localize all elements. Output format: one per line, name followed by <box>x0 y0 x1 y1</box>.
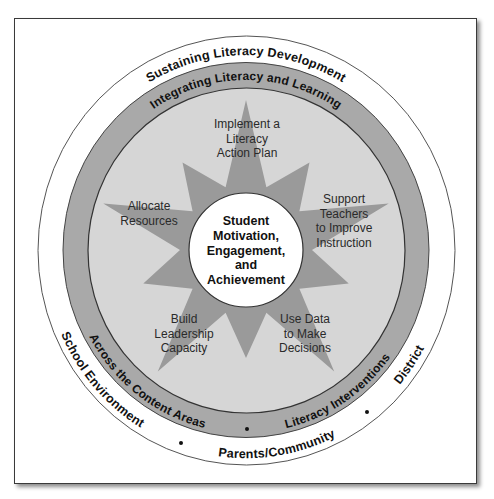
star-label-build-leadership: Build Leadership Capacity <box>154 312 213 356</box>
label-line: Achievement <box>207 273 286 288</box>
label-line: Build <box>154 312 213 327</box>
label-line: Allocate <box>120 199 177 214</box>
label-line: Leadership <box>154 327 213 342</box>
label-line: Student <box>207 214 286 229</box>
label-line: Support <box>316 192 373 207</box>
separator-dot-outer-right <box>365 410 369 414</box>
label-line: Engagement, <box>207 244 286 259</box>
label-line: Capacity <box>154 341 213 356</box>
label-line: Teachers <box>316 207 373 222</box>
separator-dot-outer-left <box>179 441 183 445</box>
star-label-use-data: Use Data to Make Decisions <box>279 312 331 356</box>
label-line: to Improve <box>316 221 373 236</box>
label-line: Motivation, <box>207 229 286 244</box>
label-line: Literacy <box>214 132 280 147</box>
label-line: Instruction <box>316 236 373 251</box>
center-label-student-outcomes: Student Motivation, Engagement, and Achi… <box>207 214 286 288</box>
label-line: Use Data <box>279 312 331 327</box>
label-line: Implement a <box>214 117 280 132</box>
label-line: Decisions <box>279 341 331 356</box>
star-label-support-teachers: Support Teachers to Improve Instruction <box>316 192 373 250</box>
label-line: Resources <box>120 214 177 229</box>
star-label-allocate-resources: Allocate Resources <box>120 199 177 228</box>
separator-dot-middle <box>245 427 249 431</box>
star-label-implement-plan: Implement a Literacy Action Plan <box>214 117 280 161</box>
label-line: Action Plan <box>214 146 280 161</box>
label-line: to Make <box>279 327 331 342</box>
label-line: and <box>207 258 286 273</box>
